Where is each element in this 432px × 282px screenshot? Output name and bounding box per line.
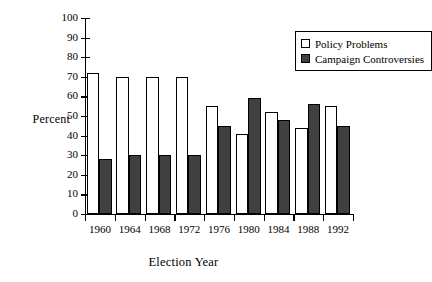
bar-group: [85, 18, 115, 214]
bar-policy-problems: [87, 73, 100, 214]
legend-item-campaign-controversies: Campaign Controversies: [301, 51, 424, 66]
bar-policy-problems: [325, 106, 338, 214]
bar-group: [115, 18, 145, 214]
y-axis-tick-label: 50: [48, 109, 78, 121]
bar-campaign-controversies: [159, 155, 172, 214]
y-axis-tick-label: 10: [48, 187, 78, 199]
legend-item-policy-problems: Policy Problems: [301, 36, 424, 51]
x-axis-tick: [293, 214, 294, 221]
x-axis-tick: [85, 214, 86, 221]
y-axis-tick-label: 100: [48, 11, 78, 23]
bar-group: [145, 18, 175, 214]
y-axis-tick-label: 70: [48, 70, 78, 82]
x-axis-tick: [115, 214, 116, 221]
bar-campaign-controversies: [337, 126, 350, 214]
bar-policy-problems: [206, 106, 219, 214]
y-axis-tick-label: 30: [48, 148, 78, 160]
bar-campaign-controversies: [308, 104, 321, 214]
y-axis-tick-label: 20: [48, 168, 78, 180]
bar-policy-problems: [176, 77, 189, 214]
x-axis-tick: [353, 214, 354, 221]
bar-group: [264, 18, 294, 214]
y-axis-tick-label: 60: [48, 89, 78, 101]
x-axis-tick: [145, 214, 146, 221]
y-axis-tick-label: 0: [48, 207, 78, 219]
bar-policy-problems: [146, 77, 159, 214]
chart-legend: Policy Problems Campaign Controversies: [295, 31, 432, 71]
y-axis-tick-label: 40: [48, 129, 78, 141]
legend-swatch-campaign-controversies: [301, 54, 310, 63]
bar-campaign-controversies: [188, 155, 201, 214]
bar-campaign-controversies: [99, 159, 112, 214]
x-axis-tick: [204, 214, 205, 221]
x-axis-tick-label: 1992: [315, 223, 361, 235]
legend-swatch-policy-problems: [301, 39, 310, 48]
bar-policy-problems: [295, 128, 308, 214]
x-axis-tick: [234, 214, 235, 221]
bar-campaign-controversies: [129, 155, 142, 214]
y-axis-tick-label: 80: [48, 50, 78, 62]
bar-group: [204, 18, 234, 214]
x-axis-tick: [264, 214, 265, 221]
legend-label-policy-problems: Policy Problems: [315, 38, 387, 50]
bar-campaign-controversies: [248, 98, 261, 214]
x-axis-line: [85, 214, 353, 215]
x-axis-title: Election Year: [0, 255, 367, 270]
legend-label-campaign-controversies: Campaign Controversies: [315, 53, 424, 65]
bar-policy-problems: [265, 112, 278, 214]
bar-campaign-controversies: [278, 120, 291, 214]
bar-group: [174, 18, 204, 214]
x-axis-tick: [323, 214, 324, 221]
plot-area: 0102030405060708090100 19601964196819721…: [85, 18, 353, 214]
bar-policy-problems: [236, 134, 249, 214]
x-axis-tick: [174, 214, 175, 221]
bar-campaign-controversies: [218, 126, 231, 214]
bar-group: [234, 18, 264, 214]
y-axis-tick-label: 90: [48, 31, 78, 43]
bar-policy-problems: [116, 77, 129, 214]
